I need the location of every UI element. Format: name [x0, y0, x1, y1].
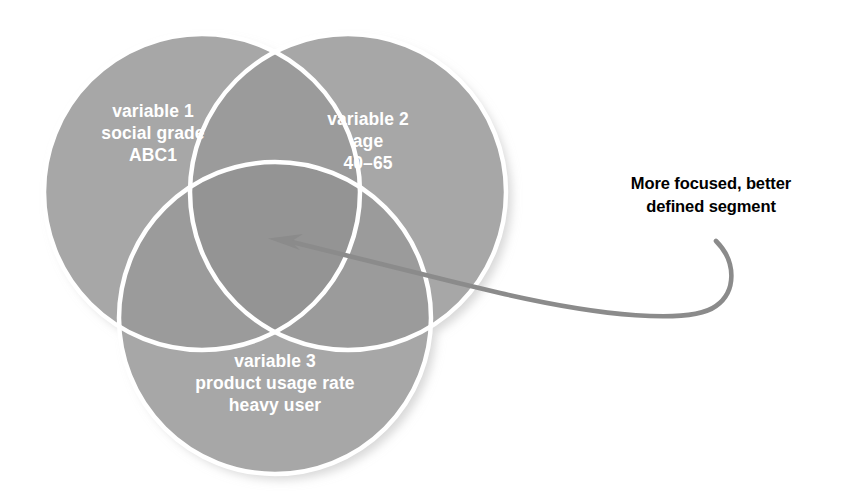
venn-diagram-figure: variable 1 social grade ABC1 variable 2 … — [0, 0, 853, 495]
callout-annotation-line1: More focused, better — [600, 172, 822, 195]
label-variable-2: variable 2 age 40–65 — [278, 108, 458, 174]
label-variable-2-line2: age — [278, 130, 458, 152]
label-variable-1-line2: social grade — [58, 122, 248, 144]
label-variable-3-line2: product usage rate — [150, 372, 400, 394]
label-variable-3-line1: variable 3 — [150, 350, 400, 372]
callout-annotation-line2: defined segment — [600, 195, 822, 218]
label-variable-1-line3: ABC1 — [58, 144, 248, 166]
label-variable-2-line1: variable 2 — [278, 108, 458, 130]
venn-diagram-canvas — [0, 0, 853, 495]
label-variable-3-line3: heavy user — [150, 394, 400, 416]
label-variable-2-line3: 40–65 — [278, 152, 458, 174]
label-variable-1-line1: variable 1 — [58, 100, 248, 122]
label-variable-3: variable 3 product usage rate heavy user — [150, 350, 400, 416]
label-variable-1: variable 1 social grade ABC1 — [58, 100, 248, 166]
callout-annotation: More focused, better defined segment — [600, 172, 822, 218]
